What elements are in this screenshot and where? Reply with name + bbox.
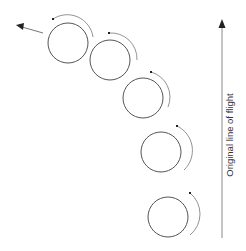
ball-4 [141,126,192,172]
spin-arc-2 [109,33,137,60]
arrow-up-icon [219,19,226,28]
spin-arc-3 [151,72,170,107]
spin-arc-4 [177,126,192,170]
ball-3 [123,72,170,118]
flight-line-label: Original line of flight [224,93,235,177]
ball-2 [90,33,137,80]
spin-arc-5 [190,193,200,235]
curved-flight-arrow [16,23,43,33]
arrow-left-icon [16,23,24,30]
spin-arc-1 [53,15,93,37]
ball-trajectory-diagram: Original line of flight [0,0,246,251]
ball-5 [148,193,200,237]
ball-1 [48,15,93,63]
